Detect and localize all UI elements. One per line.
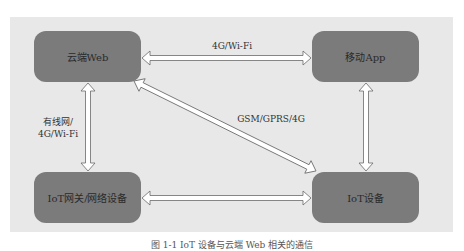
node-label: IoT设备 xyxy=(347,190,384,205)
node-iot-device: IoT设备 xyxy=(312,172,419,223)
edge-label-web-app: 4G/Wi-Fi xyxy=(200,40,264,52)
edge-label-line: 有线网/ xyxy=(36,116,80,128)
node-mobile-app: 移动App xyxy=(312,31,419,82)
edge-label-line: 4G/Wi-Fi xyxy=(36,128,80,140)
edge-label-web-gateway: 有线网/ 4G/Wi-Fi xyxy=(36,116,80,140)
node-cloud-web: 云端Web xyxy=(34,31,141,82)
arrow-web-device xyxy=(131,75,319,177)
figure-caption: 图 1-1 IoT 设备与云端 Web 相关的通信 xyxy=(0,238,464,251)
node-label: 移动App xyxy=(345,49,385,64)
edge-label-web-device: GSM/GPRS/4G xyxy=(226,113,316,125)
arrow-web-app xyxy=(142,51,311,65)
arrow-gateway-device xyxy=(142,191,311,205)
node-iot-gateway: IoT网关/网络设备 xyxy=(34,172,141,223)
node-label: IoT网关/网络设备 xyxy=(47,190,127,205)
node-label: 云端Web xyxy=(67,49,109,64)
arrow-app-device xyxy=(359,83,373,171)
arrow-web-gateway xyxy=(81,83,95,171)
